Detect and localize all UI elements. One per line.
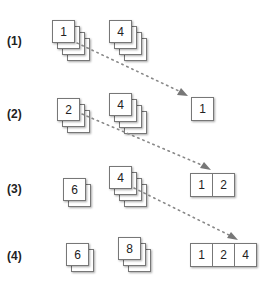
dotted-arrows [0, 0, 276, 289]
arrowhead-icon [227, 232, 238, 240]
merge-diagram: (1) (2) (3) (4) 1 4 1 2 4 1 2 6 [0, 0, 276, 289]
arrow-line-1 [77, 43, 181, 92]
arrow-line-2 [82, 114, 204, 166]
arrowhead-icon [177, 88, 188, 96]
arrowhead-icon [200, 162, 211, 170]
arrow-line-3 [134, 188, 231, 236]
